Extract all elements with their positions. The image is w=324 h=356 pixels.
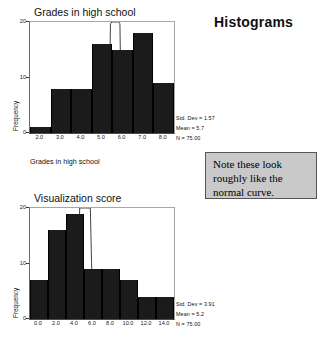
x-axis-tick: 6.0: [82, 320, 102, 326]
histogram-bar: [30, 280, 48, 319]
histogram-bar: [84, 269, 102, 319]
y-axis-tick: 10: [10, 74, 26, 80]
plot-area: [29, 21, 175, 134]
y-axis-tick: 0: [10, 129, 26, 135]
x-axis-tick: 10.0: [118, 320, 138, 326]
stat-std-dev: Std. Dev = 1.57: [176, 113, 215, 123]
x-axis-tick: 8.0: [100, 320, 120, 326]
histogram-bar: [48, 230, 66, 319]
stat-mean: Mean = 5.7: [176, 123, 215, 133]
stat-mean: Mean = 5.2: [176, 309, 215, 319]
y-axis-tick: 20: [10, 18, 26, 24]
statistics-box: Std. Dev = 1.57 Mean = 5.7 N = 75.00: [176, 113, 215, 143]
plot-area: [29, 207, 175, 320]
statistics-box: Std. Dev = 3.91 Mean = 5.2 N = 75.00: [176, 299, 215, 329]
x-axis-tick: 2.0: [29, 134, 49, 140]
x-axis-tick: 4.0: [64, 320, 84, 326]
x-axis-tick: 5.0: [91, 134, 111, 140]
histogram-bar: [102, 269, 120, 319]
histogram-bar: [51, 89, 72, 133]
x-axis-tick: 12.0: [136, 320, 156, 326]
histogram-bar: [138, 297, 156, 319]
x-axis-tick: 2.0: [46, 320, 66, 326]
y-axis-label: Frequency: [12, 288, 19, 318]
histogram-bar: [92, 44, 113, 133]
histogram-bar: [71, 89, 92, 133]
histogram-bar: [120, 280, 138, 319]
histogram-bar: [133, 33, 154, 133]
histogram-bar: [30, 127, 51, 133]
histogram-bar: [156, 297, 174, 319]
stat-n: N = 75.00: [176, 319, 215, 329]
y-axis-tick: 20: [10, 204, 26, 210]
histogram-grades-in-high-school: Grades in high school Grades in high sch…: [0, 0, 200, 175]
y-axis-tick: 10: [10, 260, 26, 266]
note-callout: Note these look roughly like the normal …: [205, 152, 317, 199]
chart-title: Visualization score: [34, 192, 121, 204]
stat-std-dev: Std. Dev = 3.91: [176, 299, 215, 309]
x-axis-tick: 0.0: [28, 320, 48, 326]
histogram-visualization-score: Visualization score Frequency Std. Dev =…: [0, 185, 200, 356]
page-title: Histograms: [214, 14, 293, 30]
x-axis-tick: 4.0: [70, 134, 90, 140]
stat-n: N = 75.00: [176, 133, 215, 143]
y-axis-tick: 0: [10, 315, 26, 321]
x-axis-tick: 3.0: [50, 134, 70, 140]
histogram-bar: [112, 50, 133, 133]
histogram-bar: [153, 83, 174, 133]
x-axis-tick: 7.0: [132, 134, 152, 140]
x-axis-label: Grades in high school: [30, 157, 100, 166]
x-axis-tick: 8.0: [153, 134, 173, 140]
histograms-page: Histograms Note these look roughly like …: [0, 0, 324, 356]
histogram-bar: [66, 214, 84, 319]
y-axis-label: Frequency: [12, 101, 19, 131]
chart-title: Grades in high school: [34, 6, 136, 18]
x-axis-tick: 6.0: [112, 134, 132, 140]
x-axis-tick: 14.0: [154, 320, 174, 326]
